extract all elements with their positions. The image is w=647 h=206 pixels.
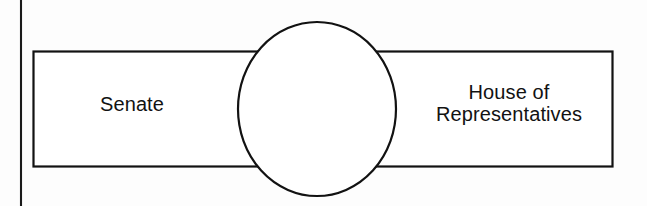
- venn-diagram-figure: Senate House of Representatives: [0, 0, 647, 206]
- shared-powers-ellipse: [238, 22, 396, 196]
- house-of-representatives-label: House of Representatives: [405, 81, 613, 126]
- senate-label: Senate: [33, 93, 231, 115]
